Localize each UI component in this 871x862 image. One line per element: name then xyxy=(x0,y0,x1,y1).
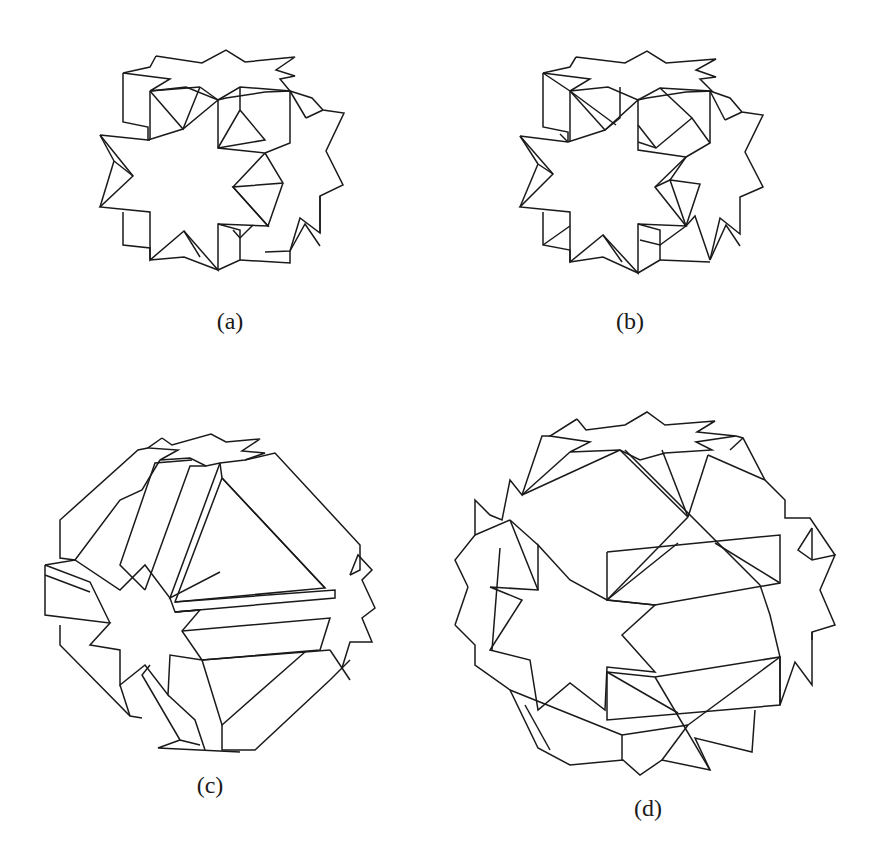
polyhedron-drawing-b xyxy=(490,30,770,290)
polyhedron-drawing-a xyxy=(90,30,370,290)
caption-b: (b) xyxy=(590,308,670,335)
panel-a: (a) xyxy=(90,30,370,290)
caption-d: (d) xyxy=(608,795,688,822)
caption-a: (a) xyxy=(190,308,270,335)
panel-d: (d) xyxy=(450,400,850,800)
panel-b: (b) xyxy=(490,30,770,290)
polyhedron-drawing-c xyxy=(30,420,390,780)
polyhedron-drawing-d xyxy=(450,400,850,800)
caption-c: (c) xyxy=(170,772,250,799)
panel-c: (c) xyxy=(30,420,390,780)
